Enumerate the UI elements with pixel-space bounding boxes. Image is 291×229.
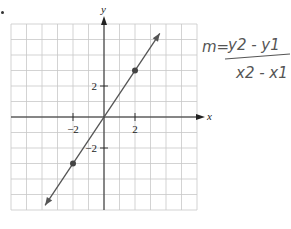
x-axis-arrow-icon xyxy=(196,114,205,120)
plotted-line xyxy=(45,33,160,205)
slope-formula: m= y2 - y1 x2 - x1 xyxy=(202,36,290,82)
slope-denominator: x2 - x1 xyxy=(235,64,288,82)
x-tick-label: 2 xyxy=(132,123,138,135)
line-arrow-down-icon xyxy=(45,197,52,205)
line-arrow-up-icon xyxy=(153,33,160,41)
y-tick-label: 2 xyxy=(92,80,98,92)
line xyxy=(45,33,160,205)
slope-numerator: y2 - y1 xyxy=(227,36,280,54)
axes xyxy=(11,16,205,210)
plotted-point xyxy=(132,68,138,74)
x-tick-label: −2 xyxy=(67,123,79,135)
y-axis-arrow-icon xyxy=(101,16,107,25)
y-axis-label: y xyxy=(100,3,106,15)
coordinate-graph: −222−2 x y m= y2 - y1 x2 - x1 xyxy=(0,0,291,229)
slope-lhs: m= xyxy=(202,38,229,56)
plotted-point xyxy=(70,161,76,167)
y-tick-label: −2 xyxy=(85,142,97,154)
x-axis-label: x xyxy=(206,110,212,122)
fraction-bar xyxy=(225,54,290,59)
